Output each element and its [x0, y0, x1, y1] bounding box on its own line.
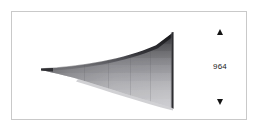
- horn-render-svg: [12, 12, 194, 119]
- horn-body: [12, 12, 194, 119]
- app-root: 964: [0, 0, 262, 132]
- value-stepper: 964: [194, 12, 246, 119]
- decrement-button[interactable]: [213, 96, 227, 107]
- horn-render-viewport[interactable]: [12, 12, 194, 119]
- triangle-down-icon: [217, 99, 223, 105]
- horn-mouth-edge: [171, 32, 174, 109]
- triangle-up-icon: [217, 29, 223, 35]
- stepper-value[interactable]: 964: [213, 62, 227, 72]
- horn-facet-bands: [12, 32, 194, 109]
- increment-button[interactable]: [213, 26, 227, 37]
- horn-viewer-panel: 964: [11, 11, 247, 120]
